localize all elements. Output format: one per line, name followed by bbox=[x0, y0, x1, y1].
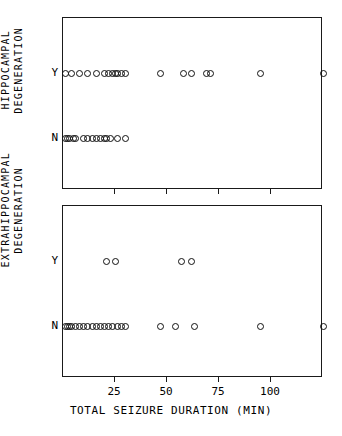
x-axis-title: TOTAL SEIZURE DURATION (MIN) bbox=[0, 404, 342, 417]
data-point bbox=[188, 258, 195, 265]
data-point bbox=[180, 70, 187, 77]
data-point bbox=[178, 258, 185, 265]
hippocampal-plot-area bbox=[63, 18, 321, 188]
extrahippocampal-category-no: N bbox=[44, 320, 58, 331]
hippocampal-x-ticks bbox=[62, 189, 322, 195]
data-point bbox=[122, 70, 129, 77]
data-point bbox=[157, 70, 164, 77]
data-point bbox=[76, 70, 83, 77]
x-axis-tick-labels: 255075100 bbox=[62, 386, 322, 400]
data-point bbox=[84, 70, 91, 77]
extrahippocampal-x-ticks bbox=[62, 377, 322, 383]
data-point bbox=[112, 258, 119, 265]
data-point bbox=[122, 135, 129, 142]
hippocampal-axis-title-line1: HIPPOCAMPAL bbox=[0, 30, 12, 109]
x-tick bbox=[166, 189, 167, 194]
extrahippocampal-plot-area bbox=[63, 206, 321, 376]
x-tick-label: 75 bbox=[211, 386, 224, 397]
hippocampal-category-yes: Y bbox=[44, 67, 58, 78]
data-point bbox=[320, 323, 327, 330]
x-tick-label: 50 bbox=[159, 386, 172, 397]
data-point bbox=[103, 258, 110, 265]
hippocampal-axis-title-line2: DEGENERATION bbox=[13, 27, 25, 114]
data-point bbox=[157, 323, 164, 330]
data-point bbox=[191, 323, 198, 330]
data-point bbox=[320, 70, 327, 77]
extrahippocampal-axis-title-line1: EXTRAHIPPOCAMPAL bbox=[0, 152, 12, 268]
extrahippocampal-category-yes: Y bbox=[44, 255, 58, 266]
data-point bbox=[207, 70, 214, 77]
hippocampal-category-no: N bbox=[44, 132, 58, 143]
x-tick bbox=[218, 377, 219, 382]
data-point bbox=[188, 70, 195, 77]
x-tick bbox=[114, 189, 115, 194]
data-point bbox=[122, 323, 129, 330]
data-point bbox=[93, 70, 100, 77]
data-point bbox=[257, 70, 264, 77]
extrahippocampal-axis-title-line2: DEGENERATION bbox=[13, 167, 25, 254]
x-tick bbox=[270, 377, 271, 382]
x-tick bbox=[166, 377, 167, 382]
extrahippocampal-panel bbox=[62, 205, 322, 377]
data-point bbox=[257, 323, 264, 330]
data-point bbox=[68, 70, 75, 77]
hippocampal-panel bbox=[62, 17, 322, 189]
x-tick bbox=[218, 189, 219, 194]
data-point bbox=[72, 135, 79, 142]
x-tick bbox=[270, 189, 271, 194]
x-tick-label: 100 bbox=[260, 386, 280, 397]
data-point bbox=[172, 323, 179, 330]
x-tick bbox=[114, 377, 115, 382]
data-point bbox=[114, 135, 121, 142]
x-tick-label: 25 bbox=[107, 386, 120, 397]
